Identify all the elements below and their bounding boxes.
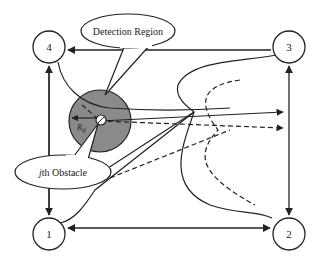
dashed-trajectory-curve (205, 80, 255, 205)
node-1: 1 (33, 218, 65, 250)
node-4: 4 (33, 31, 65, 63)
solid-trajectory-curve-3 (177, 55, 276, 218)
node-1-label: 1 (46, 228, 52, 240)
node-2: 2 (273, 218, 305, 250)
node-3-label: 3 (286, 41, 292, 53)
node-2-label: 2 (286, 228, 292, 240)
detection-region-label: Detection Region (93, 26, 163, 37)
node-4-label: 4 (46, 41, 52, 53)
node-3: 3 (273, 31, 305, 63)
obstacle-label: jth Obstacle (37, 167, 88, 178)
detection-region-callout: Detection Region (81, 14, 175, 95)
obstacle-marker (96, 115, 106, 125)
diagram-canvas: Rkj Detection Region jth Obstacle 4 3 1 … (0, 0, 321, 259)
